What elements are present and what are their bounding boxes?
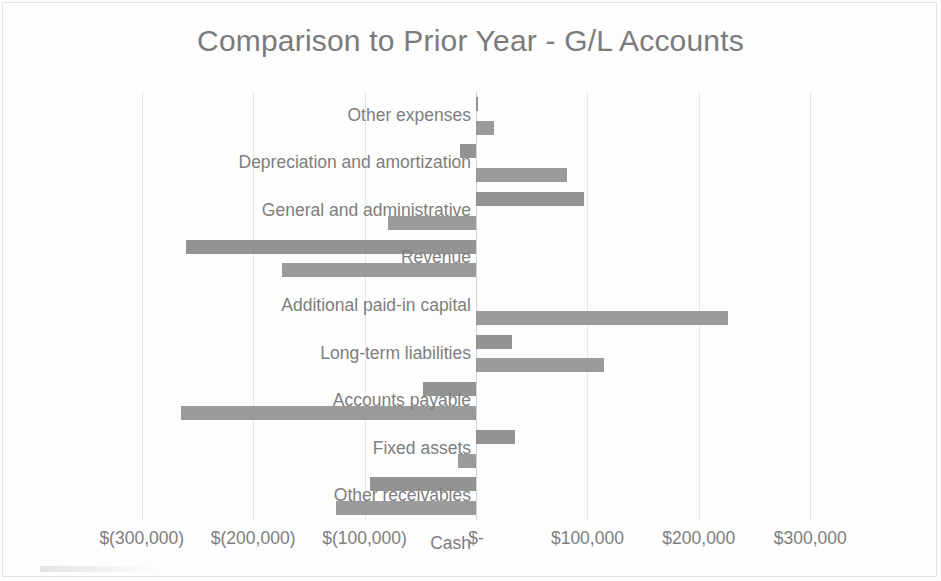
tick-label: $(300,000) <box>99 528 184 549</box>
gridline-0 <box>142 92 143 520</box>
bar <box>423 382 476 396</box>
bar <box>186 240 476 254</box>
scan-artifact <box>40 566 160 572</box>
bar <box>181 406 476 420</box>
gridline-3 <box>476 92 477 520</box>
bar <box>460 144 476 158</box>
bar <box>476 335 512 349</box>
tick-label: $(100,000) <box>322 528 407 549</box>
bar <box>476 97 478 111</box>
chart-screenshot: Comparison to Prior Year - G/L Accounts … <box>0 0 941 581</box>
tick-label: $- <box>468 528 484 549</box>
plot-area <box>86 92 866 520</box>
bar <box>476 121 494 135</box>
gridline-1 <box>253 92 254 520</box>
tick-label: $300,000 <box>774 528 847 549</box>
tick-label: $(200,000) <box>211 528 296 549</box>
gridline-4 <box>587 92 588 520</box>
bar <box>476 311 728 325</box>
bar <box>476 192 584 206</box>
value-axis-tick-labels: $(300,000)$(200,000)$(100,000)$-$100,000… <box>0 528 941 568</box>
bar <box>388 216 476 230</box>
gridline-6 <box>810 92 811 520</box>
bar <box>370 477 476 491</box>
tick-label: $100,000 <box>551 528 624 549</box>
bar <box>476 168 567 182</box>
chart-title: Comparison to Prior Year - G/L Accounts <box>0 24 941 58</box>
bar <box>476 430 515 444</box>
gridline-5 <box>699 92 700 520</box>
bar <box>476 358 604 372</box>
bar <box>336 501 476 515</box>
bar <box>282 263 476 277</box>
tick-label: $200,000 <box>662 528 735 549</box>
bar <box>458 454 476 468</box>
gridline-2 <box>365 92 366 520</box>
